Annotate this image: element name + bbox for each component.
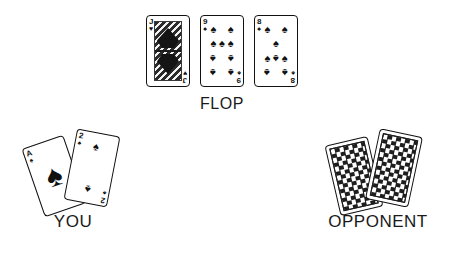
spade-icon: ♠	[210, 53, 216, 64]
card-rank: 9	[237, 76, 241, 84]
spade-icon: ♠	[291, 70, 295, 77]
spade-icon: ♠	[228, 67, 234, 78]
opponent-card-face-down-2[interactable]	[365, 128, 423, 208]
pip-layout-eight: ♠ ♠ ♠ ♠ ♠ ♠ ♠ ♠	[263, 22, 289, 80]
spade-icon: ♠	[228, 38, 234, 49]
card-index-bottom-right: 8 ♠	[291, 70, 295, 84]
opponent-hand-label: OPPONENT	[307, 212, 449, 232]
court-figure-art	[154, 21, 182, 81]
spade-icon: ♠	[264, 53, 270, 64]
card-rank: J	[183, 76, 187, 84]
card-index-bottom-right: 9 ♠	[237, 70, 241, 84]
spade-icon: ♠	[273, 38, 279, 49]
spade-icon: ♠	[282, 24, 288, 35]
card-index-top-left: J ♥	[149, 18, 153, 32]
card-index-bottom-right: J ♥	[183, 70, 187, 84]
spade-icon: ♠	[219, 38, 225, 49]
flop-card-jack-hearts[interactable]: J ♥ J ♥	[146, 15, 190, 87]
spade-icon: ♠	[84, 183, 92, 195]
spade-icon: ♠	[210, 38, 216, 49]
spade-icon: ♠	[210, 67, 216, 78]
pip-layout-nine: ♠ ♠ ♠ ♠ ♠ ♠ ♠ ♠ ♠	[209, 22, 235, 80]
card-back-pattern	[370, 133, 419, 203]
card-index-top-left: 8 ♠	[257, 18, 261, 32]
flop-label: FLOP	[146, 95, 298, 113]
card-index-bottom-right: 2 ♠	[100, 190, 107, 205]
flop-card-nine-spades[interactable]: 9 ♠ ♠ ♠ ♠ ♠ ♠ ♠ ♠ ♠ ♠ 9 ♠	[200, 15, 244, 87]
heart-icon: ♥	[183, 70, 187, 77]
spade-icon: ♠	[210, 24, 216, 35]
spade-icon: ♠	[203, 25, 207, 32]
spade-icon: ♠	[282, 53, 288, 64]
spade-icon: ♠	[102, 190, 107, 198]
spade-icon: ♠	[264, 24, 270, 35]
spade-icon: ♠	[257, 25, 261, 32]
your-card-two-spades[interactable]: 2 ♠ ♠ ♠ 2 ♠	[64, 128, 121, 207]
spade-icon: ♠	[264, 67, 270, 78]
your-hand-group: A ♠ ♠ A ♠ 2 ♠ ♠	[18, 126, 128, 216]
heart-icon: ♥	[149, 25, 153, 32]
spade-icon: ♠	[237, 70, 241, 77]
spade-icon: ♠	[77, 139, 82, 147]
card-index-top-left: 9 ♠	[203, 18, 207, 32]
spade-icon: ♠	[92, 141, 100, 153]
spade-icon: ♠	[282, 67, 288, 78]
opponent-hand-group	[326, 126, 436, 216]
card-rank: 8	[291, 76, 295, 84]
flop-card-eight-spades[interactable]: 8 ♠ ♠ ♠ ♠ ♠ ♠ ♠ ♠ ♠ 8 ♠	[254, 15, 298, 87]
your-hand-label: YOU	[0, 212, 146, 232]
card-table-scene: J ♥ J ♥ 9 ♠ ♠ ♠ ♠ ♠ ♠ ♠	[0, 0, 449, 255]
spade-icon: ♠	[228, 24, 234, 35]
spade-icon: ♠	[228, 53, 234, 64]
spade-icon: ♠	[273, 53, 279, 64]
